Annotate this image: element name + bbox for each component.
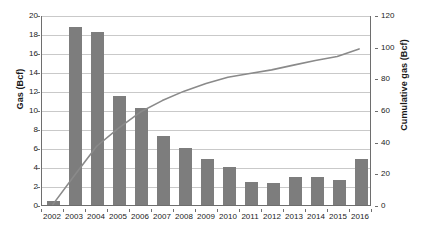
y-axis-right-tick-mark — [375, 143, 378, 144]
y-axis-left-tick-label: 2 — [22, 183, 38, 191]
y-axis-left-tick-label: 12 — [22, 88, 38, 96]
y-axis-left-tick-mark — [37, 149, 40, 150]
y-axis-right-tick-label: 80 — [381, 75, 399, 83]
plot-area — [41, 16, 371, 206]
x-axis-tick-mark — [349, 209, 350, 212]
y-axis-right-tick-label: 60 — [381, 107, 399, 115]
y-axis-left-tick-mark — [37, 168, 40, 169]
y-axis-left-tick-label: 10 — [22, 107, 38, 115]
y-axis-right-ticks: 020406080100120 — [375, 0, 397, 240]
y-axis-right-tick-mark — [375, 206, 378, 207]
y-axis-left-tick-label: 8 — [22, 126, 38, 134]
x-axis-tick-mark — [327, 209, 328, 212]
y-axis-right-tick-mark — [375, 48, 378, 49]
y-axis-left-tick-label: 6 — [22, 145, 38, 153]
y-axis-right-tick-label: 40 — [381, 139, 399, 147]
x-axis-tick-mark — [129, 209, 130, 212]
x-axis-tick-mark — [217, 209, 218, 212]
y-axis-left-tick-label: 16 — [22, 50, 38, 58]
y-axis-left-tick-mark — [37, 92, 40, 93]
y-axis-left-tick-label: 18 — [22, 31, 38, 39]
y-axis-left-tick-mark — [37, 187, 40, 188]
y-axis-left-tick-mark — [37, 54, 40, 55]
x-axis-tick-mark — [195, 209, 196, 212]
x-axis-tick-mark — [283, 209, 284, 212]
y-axis-left-tick-mark — [37, 16, 40, 17]
x-axis-tick-mark — [261, 209, 262, 212]
y-axis-right-tick-label: 100 — [381, 44, 399, 52]
y-axis-right-tick-label: 0 — [381, 202, 399, 210]
y-axis-left-tick-mark — [37, 130, 40, 131]
y-axis-left-tick-label: 14 — [22, 69, 38, 77]
cumulative-line-path — [53, 49, 359, 204]
y-axis-right-title: Cumulative gas (Bcf) — [399, 25, 409, 145]
x-axis-tick-mark — [151, 209, 152, 212]
y-axis-right-tick-mark — [375, 79, 378, 80]
x-axis-tick-mark — [239, 209, 240, 212]
x-axis-tick-mark — [371, 209, 372, 212]
y-axis-left-tick-label: 4 — [22, 164, 38, 172]
x-axis-tick-label: 2016 — [347, 212, 373, 221]
y-axis-right-tick-label: 20 — [381, 170, 399, 178]
y-axis-left-tick-label: 0 — [22, 202, 38, 210]
y-axis-right-tick-mark — [375, 174, 378, 175]
x-axis-tick-mark — [173, 209, 174, 212]
y-axis-left-ticks: 02468101214161820 — [18, 0, 38, 240]
x-axis-tick-mark — [63, 209, 64, 212]
y-axis-right-tick-mark — [375, 16, 378, 17]
chart-container: Gas (Bcf) Cumulative gas (Bcf) 024681012… — [0, 0, 422, 240]
x-axis-tick-mark — [107, 209, 108, 212]
cumulative-line-series — [42, 16, 370, 205]
x-axis-tick-mark — [85, 209, 86, 212]
y-axis-right-tick-mark — [375, 111, 378, 112]
y-axis-right-tick-label: 120 — [381, 12, 399, 20]
x-axis-tick-mark — [41, 209, 42, 212]
y-axis-left-tick-mark — [37, 35, 40, 36]
x-axis-labels: 2002200320042005200620072008200920102011… — [41, 209, 371, 229]
y-axis-left-tick-mark — [37, 206, 40, 207]
x-axis-tick-mark — [305, 209, 306, 212]
y-axis-left-tick-label: 20 — [22, 12, 38, 20]
y-axis-left-tick-mark — [37, 111, 40, 112]
y-axis-left-tick-mark — [37, 73, 40, 74]
